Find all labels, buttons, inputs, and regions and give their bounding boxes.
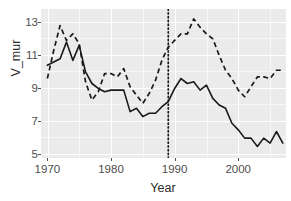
series-line-solid [47,42,282,146]
x-tick-mark [238,158,239,161]
plot-panel [41,9,286,158]
x-tick-label: 1980 [91,163,131,175]
x-axis-title: Year [40,181,286,195]
x-tick-label: 1970 [27,163,67,175]
series-layer [41,9,286,158]
chart-container: V_mur 13 11 9 7 5 1970 1980 1990 2000 Ye… [0,0,291,201]
x-tick-mark [175,158,176,161]
x-tick-mark [47,158,48,161]
x-tick-mark [111,158,112,161]
x-tick-label: 2000 [218,163,258,175]
x-tick-label: 1990 [155,163,195,175]
